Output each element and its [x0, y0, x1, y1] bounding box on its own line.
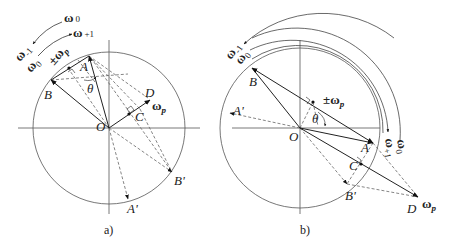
label-B: B: [249, 74, 257, 89]
label-omega-0-top: ω0: [64, 10, 81, 25]
right-angle-mark: [306, 97, 310, 104]
label-B: B: [44, 87, 52, 102]
label-theta: θ: [312, 111, 319, 126]
caption-a: a): [104, 223, 113, 237]
diagram-canvas: A B C D O B' A' θ ωp ±ωp ω0 ω+1 ω-1 ω0 a…: [0, 0, 454, 246]
label-A: A: [79, 59, 88, 74]
label-B-prime: B': [345, 188, 356, 203]
label-omega-p: ωp: [152, 98, 167, 115]
label-omega-plus1: ω+1: [73, 25, 94, 40]
label-theta: θ: [87, 81, 94, 96]
dashed-guides: [51, 56, 172, 199]
arc-omega-0-outer: [252, 28, 400, 140]
chord-BA: [252, 68, 373, 143]
label-O: O: [289, 129, 299, 144]
point-mid-BA: [311, 100, 314, 103]
label-C: C: [349, 158, 358, 173]
caption-b: b): [300, 223, 310, 237]
arc-omega-plus1: [250, 40, 388, 132]
arc-omega-minus1: [244, 13, 394, 44]
label-C: C: [135, 109, 144, 124]
label-A-prime: A': [126, 201, 138, 216]
label-O: O: [96, 119, 106, 134]
label-omega-p: ωp: [422, 196, 437, 213]
label-A-prime: A': [232, 103, 244, 118]
label-A: A: [360, 140, 369, 155]
arc-arrow-minus: [33, 22, 62, 44]
panel-b: B A C D O B' A' θ ωp ±ωp ω-1 ω0 ω+1 ω0 b…: [220, 13, 437, 237]
label-pm-omega-p: ±ωp: [323, 92, 345, 109]
label-D: D: [406, 201, 417, 216]
theta-arc: [318, 112, 325, 126]
panel-a: A B C D O B' A' θ ωp ±ωp ω0 ω+1 ω-1 ω0 a…: [11, 10, 200, 237]
label-B-prime: B': [174, 173, 185, 188]
point-mid-BA: [67, 66, 70, 69]
